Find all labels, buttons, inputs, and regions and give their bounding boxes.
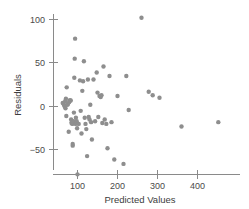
data-point — [82, 59, 86, 63]
chart-canvas: 100 50 0 −50 Residuals 100 200 300 400 P… — [0, 0, 249, 209]
data-point — [65, 85, 69, 89]
data-point — [216, 120, 220, 124]
data-point — [67, 130, 71, 134]
data-point — [73, 36, 77, 40]
data-point — [83, 122, 87, 126]
data-point — [115, 94, 119, 98]
data-point — [109, 120, 113, 124]
data-point — [88, 103, 92, 107]
data-point — [83, 116, 87, 120]
data-point — [64, 114, 68, 118]
x-tick-label-200: 200 — [110, 181, 125, 191]
data-point — [72, 110, 76, 114]
residual-scatter-plot: 100 50 0 −50 Residuals 100 200 300 400 P… — [0, 0, 249, 209]
data-point — [77, 122, 81, 126]
data-point — [93, 119, 97, 123]
data-point — [89, 120, 93, 124]
data-point — [103, 117, 107, 121]
data-point — [95, 70, 99, 74]
data-point — [104, 122, 108, 126]
y-axis-title: Residuals — [12, 74, 23, 116]
x-axis-group: 100 200 300 400 Predicted Values — [53, 170, 240, 205]
x-tick-label-100: 100 — [70, 181, 85, 191]
x-tick-label-400: 400 — [190, 181, 205, 191]
y-tick-label-minus50: −50 — [30, 145, 45, 155]
data-point — [91, 77, 95, 81]
data-point — [85, 154, 89, 158]
data-point — [75, 126, 79, 130]
x-tick-label-300: 300 — [150, 181, 165, 191]
data-point — [80, 89, 84, 93]
data-point — [105, 146, 109, 150]
data-point — [96, 115, 100, 119]
data-point — [81, 79, 85, 83]
data-point — [179, 124, 183, 128]
data-point — [73, 56, 77, 60]
data-point — [75, 172, 79, 176]
y-axis-group: 100 50 0 −50 Residuals — [12, 14, 58, 170]
data-point — [86, 77, 90, 81]
data-point — [71, 143, 75, 147]
data-point — [127, 108, 131, 112]
data-points-layer — [61, 16, 221, 177]
x-axis-title: Predicted Values — [104, 194, 175, 205]
data-point — [112, 157, 116, 161]
data-point — [121, 162, 125, 166]
data-point — [90, 137, 94, 141]
y-tick-label-100: 100 — [30, 15, 45, 25]
y-tick-label-0: 0 — [40, 102, 45, 112]
data-point — [79, 131, 83, 135]
data-point — [107, 74, 111, 78]
data-point — [99, 93, 103, 97]
data-point — [157, 96, 161, 100]
data-point — [69, 98, 73, 102]
data-point — [72, 76, 76, 80]
data-point — [124, 74, 128, 78]
data-point — [84, 127, 88, 131]
data-point — [139, 16, 143, 20]
data-point — [147, 90, 151, 94]
y-tick-label-50: 50 — [35, 58, 45, 68]
data-point — [101, 64, 105, 68]
data-point — [151, 93, 155, 97]
data-point — [79, 109, 83, 113]
